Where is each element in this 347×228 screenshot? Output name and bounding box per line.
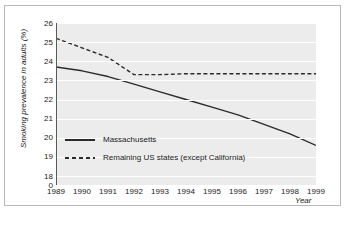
x-axis-title: Year bbox=[295, 196, 311, 205]
gridline bbox=[56, 138, 316, 139]
gridline bbox=[56, 100, 316, 101]
y-tick-label: 23 bbox=[37, 76, 53, 85]
series-line bbox=[56, 67, 316, 145]
legend-label: Remaining US states (except California) bbox=[103, 152, 245, 163]
y-axis-break-gridline bbox=[56, 176, 316, 177]
y-tick-label: 26 bbox=[37, 19, 53, 28]
y-tick-label: 19 bbox=[37, 152, 53, 161]
gridline bbox=[56, 23, 316, 24]
y-tick-label: 22 bbox=[37, 95, 53, 104]
y-axis-break-band bbox=[56, 176, 316, 185]
y-tick-label: 24 bbox=[37, 57, 53, 66]
series-line bbox=[56, 38, 316, 74]
y-axis-line bbox=[56, 23, 57, 185]
legend-label: Massachusetts bbox=[103, 134, 156, 145]
y-tick-label: 18 bbox=[37, 172, 53, 181]
gridline bbox=[56, 119, 316, 120]
gridline bbox=[56, 80, 316, 81]
legend-line-sample-dashed-icon bbox=[65, 157, 95, 159]
x-tick-label: 1999 bbox=[301, 187, 331, 196]
y-axis-title: Smoking prevalence in adults (%) bbox=[19, 24, 28, 154]
y-tick-label: 20 bbox=[37, 133, 53, 142]
gridline bbox=[56, 42, 316, 43]
y-axis-tick-labels: 2625242322212019180 bbox=[35, 6, 53, 207]
gridline bbox=[56, 61, 316, 62]
y-tick-label: 25 bbox=[37, 38, 53, 47]
legend-line-sample-solid-icon bbox=[65, 139, 95, 141]
y-tick-label: 21 bbox=[37, 114, 53, 123]
chart-figure: Smoking prevalence in adults (%) 2625242… bbox=[4, 5, 341, 206]
